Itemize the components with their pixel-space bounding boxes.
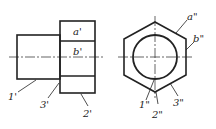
label-2-double-prime: 2" (151, 109, 163, 120)
leader-2 (81, 94, 88, 106)
label-2-prime: 2' (82, 108, 92, 119)
leader-1 (18, 80, 36, 92)
label-3-double-prime: 3" (173, 97, 184, 108)
label-b-prime: b' (73, 46, 82, 57)
label-1-double-prime: 1" (139, 99, 150, 110)
label-a-double-prime: a" (187, 11, 198, 22)
label-b-double-prime: b" (193, 33, 204, 44)
label-1-prime: 1' (8, 91, 17, 102)
front-view (9, 21, 103, 106)
label-a-prime: a' (73, 26, 82, 37)
side-view (118, 16, 194, 104)
leader-2 (156, 92, 158, 104)
leader-3 (48, 83, 59, 98)
projection-drawing: a' b' 1' 3' 2' a" b" 1" 2" 3" (0, 0, 216, 129)
leader-3 (170, 83, 178, 96)
side-view-labels: a" b" 1" 2" 3" (139, 11, 204, 120)
front-view-labels: a' b' 1' 3' 2' (8, 26, 92, 119)
label-3-prime: 3' (40, 99, 49, 110)
leader-a (176, 20, 187, 33)
